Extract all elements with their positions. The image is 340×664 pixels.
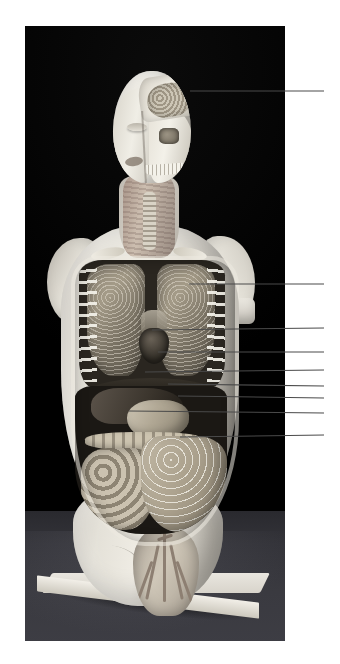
abdominal-cavity (75, 386, 227, 534)
trachea (143, 192, 156, 250)
figure-root (0, 0, 340, 664)
torso-model (25, 26, 285, 641)
anatomy-photo-plate (25, 26, 285, 641)
pelvic-cutaway (133, 526, 199, 616)
ribcage-left (79, 260, 97, 382)
pelvic-vessels (133, 526, 199, 616)
thoracic-cavity (79, 260, 225, 388)
head (113, 71, 191, 183)
eye-socket (159, 128, 179, 144)
greater-omentum (141, 436, 227, 532)
ribcage-right (207, 260, 225, 382)
neck (119, 176, 179, 258)
